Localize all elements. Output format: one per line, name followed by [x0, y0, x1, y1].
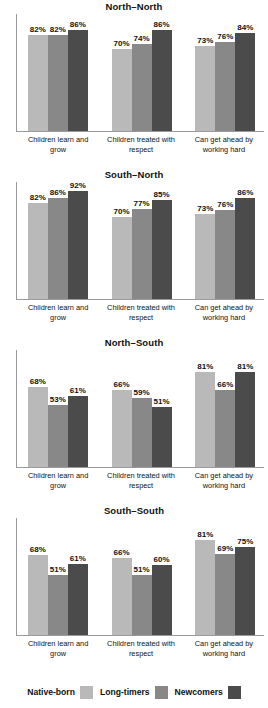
bar-value-label: 51%	[153, 397, 170, 406]
bar-rect	[195, 540, 215, 635]
category-label: Can get ahead by working hard	[186, 135, 262, 154]
bar-value-label: 68%	[29, 377, 46, 386]
bar-rect	[152, 200, 172, 299]
legend-item-long-timers: Long-timers	[100, 686, 168, 699]
category-label: Children treated with respect	[103, 135, 179, 154]
bar-long-timers: 86%	[48, 182, 68, 299]
category-label: Children learn and grow	[20, 135, 96, 154]
category-label-line2: respect	[103, 145, 179, 155]
legend-item-native-born: Native-born	[27, 686, 93, 699]
bar-value-label: 69%	[217, 544, 234, 553]
bar-value-label: 76%	[217, 32, 234, 41]
bar-newcomers: 84%	[235, 14, 255, 131]
bar-rect	[68, 191, 88, 299]
bar-value-label: 61%	[69, 554, 86, 563]
panel-south-north: South–North 82% 86% 92%	[0, 168, 268, 336]
bar-value-label: 82%	[49, 25, 66, 34]
bar-value-label: 86%	[49, 188, 66, 197]
category-label: Can get ahead by working hard	[186, 303, 262, 322]
bar-native-born: 68%	[28, 518, 48, 635]
bar-value-label: 68%	[29, 545, 46, 554]
bar-native-born: 81%	[195, 350, 215, 467]
bar-rect	[235, 198, 255, 299]
plot-area: 82% 82% 86% 70%	[16, 14, 264, 132]
bar-native-born: 73%	[195, 14, 215, 131]
bar-rect	[235, 372, 255, 467]
bar-rect	[235, 33, 255, 131]
category-label-line2: working hard	[186, 313, 262, 323]
bar-native-born: 66%	[112, 518, 132, 635]
bar-group: 70% 77% 85%	[105, 182, 179, 299]
legend-label: Newcomers	[175, 687, 223, 697]
bar-value-label: 82%	[29, 193, 46, 202]
bar-rect	[152, 565, 172, 635]
bar-rect	[215, 42, 235, 131]
bar-rect	[152, 30, 172, 131]
category-label-line1: Children treated with	[107, 639, 175, 648]
bar-value-label: 84%	[237, 23, 254, 32]
bar-newcomers: 86%	[152, 14, 172, 131]
bar-native-born: 73%	[195, 182, 215, 299]
bar-native-born: 70%	[112, 182, 132, 299]
bar-value-label: 70%	[113, 207, 130, 216]
bar-rect	[132, 44, 152, 131]
panel-north-north: North–North 82% 82% 86%	[0, 0, 268, 168]
legend-item-newcomers: Newcomers	[175, 686, 241, 699]
bar-rect	[28, 35, 48, 131]
bar-rect	[132, 209, 152, 299]
category-label-line2: respect	[103, 649, 179, 659]
bar-long-timers: 82%	[48, 14, 68, 131]
category-label: Children treated with respect	[103, 639, 179, 658]
bar-value-label: 66%	[217, 380, 234, 389]
category-labels: Children learn and grow Children treated…	[16, 468, 264, 490]
bar-value-label: 66%	[113, 548, 130, 557]
category-label: Can get ahead by working hard	[186, 471, 262, 490]
category-labels: Children learn and grow Children treated…	[16, 636, 264, 658]
bar-long-timers: 77%	[132, 182, 152, 299]
bar-value-label: 81%	[197, 362, 214, 371]
bar-rect	[215, 390, 235, 467]
bar-long-timers: 69%	[215, 518, 235, 635]
bar-rect	[132, 398, 152, 467]
bar-value-label: 51%	[49, 565, 66, 574]
bar-native-born: 68%	[28, 350, 48, 467]
bar-long-timers: 76%	[215, 182, 235, 299]
category-labels: Children learn and grow Children treated…	[16, 132, 264, 154]
bar-rect	[112, 558, 132, 635]
panel-title: South–South	[0, 504, 268, 518]
bar-value-label: 86%	[237, 188, 254, 197]
bar-native-born: 82%	[28, 182, 48, 299]
bar-rect	[112, 49, 132, 131]
bar-rect	[195, 214, 215, 299]
panel-title: North–North	[0, 0, 268, 14]
bar-value-label: 51%	[133, 565, 150, 574]
bar-long-timers: 51%	[132, 518, 152, 635]
bar-value-label: 74%	[133, 34, 150, 43]
bar-rect	[48, 575, 68, 635]
category-label-line1: Can get ahead by	[195, 303, 253, 312]
bar-long-timers: 51%	[48, 518, 68, 635]
category-label-line1: Children learn and grow	[28, 471, 88, 490]
bar-newcomers: 75%	[235, 518, 255, 635]
category-label-line1: Children treated with	[107, 471, 175, 480]
bar-value-label: 82%	[29, 25, 46, 34]
bar-group: 70% 74% 86%	[105, 14, 179, 131]
bar-value-label: 53%	[49, 395, 66, 404]
bar-value-label: 77%	[133, 199, 150, 208]
panel-title: North–South	[0, 336, 268, 350]
panel-title: South–North	[0, 168, 268, 182]
bar-value-label: 66%	[113, 380, 130, 389]
bar-value-label: 81%	[237, 362, 254, 371]
bar-rect	[132, 575, 152, 635]
bar-value-label: 76%	[217, 200, 234, 209]
category-label-line2: respect	[103, 313, 179, 323]
bar-group: 81% 66% 81%	[189, 350, 263, 467]
legend-swatch	[228, 686, 241, 699]
bar-native-born: 66%	[112, 350, 132, 467]
category-label: Children treated with respect	[103, 471, 179, 490]
category-label-line1: Can get ahead by	[195, 471, 253, 480]
bar-rect	[48, 35, 68, 131]
bar-group: 73% 76% 86%	[189, 182, 263, 299]
bar-group: 68% 53% 61%	[21, 350, 95, 467]
bar-value-label: 92%	[69, 181, 86, 190]
